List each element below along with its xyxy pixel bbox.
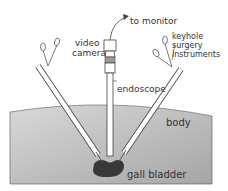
label-keyhole-3: instruments — [172, 50, 220, 60]
label-gall-bladder: gall bladder — [127, 170, 186, 180]
label-endoscope: endoscope — [117, 84, 166, 94]
label-to-monitor: to monitor — [130, 16, 177, 26]
label-body: body — [166, 118, 191, 128]
label-video-camera-2: camera — [72, 48, 106, 58]
label-video-camera-1: video — [75, 38, 100, 48]
diagram-canvas — [0, 0, 228, 191]
